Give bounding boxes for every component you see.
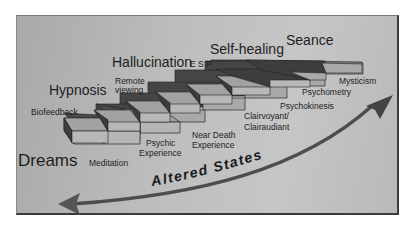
label-remote-viewing-line2: viewing [115,86,143,95]
label-psychic-experience-line1: Psychic [146,139,175,148]
label-seance: Seance [286,33,333,47]
label-clairaudiant-line2: Clairaudiant [244,123,289,132]
label-biofeedback: Biofeedback [31,108,78,117]
label-psychometry: Psychometry [302,88,351,97]
label-hypnosis: Hypnosis [49,83,107,97]
label-meditation: Meditation [89,159,128,168]
label-hallucination: Hallucination [112,55,192,69]
label-near-death-line1: Near Death [192,131,235,140]
label-near-death-line2: Experience [192,141,235,150]
label-esp: E S P [190,60,212,69]
label-self-healing: Self-healing [210,42,284,56]
label-clairvoyant-line1: Clairvoyant/ [244,112,289,121]
arrow-head-right-icon [366,95,393,119]
label-mysticism: Mysticism [339,77,376,86]
label-psychic-experience-line2: Experience [139,149,182,158]
label-dreams: Dreams [18,152,78,169]
label-psychokinesis: Psychokinesis [280,102,334,111]
